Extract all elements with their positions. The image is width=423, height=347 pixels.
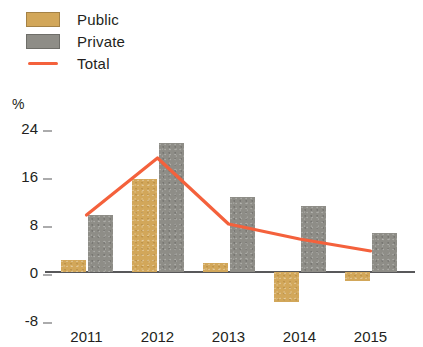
y-axis-tick-label: 0 xyxy=(30,264,38,281)
y-axis-tick-label: 16 xyxy=(21,168,38,185)
x-axis-tick-2015: 2015 xyxy=(354,328,387,345)
bar-public-2012 xyxy=(132,179,157,272)
legend-item-private: Private xyxy=(26,30,125,52)
y-axis-tick-mark xyxy=(43,226,52,227)
y-axis-tick-label: 8 xyxy=(30,216,38,233)
plot-area: 241680-8 20112012201320142015 xyxy=(55,128,410,320)
x-axis-tick-2012: 2012 xyxy=(141,328,174,345)
legend-item-total: Total xyxy=(26,52,125,74)
y-axis-tick-label: 24 xyxy=(21,120,38,137)
y-axis-tick: 16 xyxy=(0,168,52,185)
legend-label-private: Private xyxy=(77,33,125,50)
y-axis-tick: 8 xyxy=(0,216,52,233)
bar-public-2015 xyxy=(345,272,370,281)
y-axis-tick: -8 xyxy=(0,312,52,329)
legend-label-public: Public xyxy=(77,11,119,28)
total-line-path xyxy=(87,158,371,251)
y-axis-unit-label: % xyxy=(12,96,24,112)
y-axis-tick-mark xyxy=(43,130,52,131)
y-axis-tick-mark xyxy=(43,274,52,275)
legend-label-total: Total xyxy=(77,55,110,72)
bar-public-2013 xyxy=(203,263,228,272)
legend-line-total xyxy=(28,62,58,65)
bar-public-2011 xyxy=(61,260,86,272)
legend-swatch-total xyxy=(26,56,60,71)
y-axis-tick-mark xyxy=(43,322,52,323)
legend-swatch-public xyxy=(26,12,60,27)
bar-private-2012 xyxy=(159,143,184,272)
y-axis-tick: 24 xyxy=(0,120,52,137)
y-axis-tick-mark xyxy=(43,178,52,179)
chart-legend: Public Private Total xyxy=(26,8,125,74)
bar-private-2013 xyxy=(230,197,255,272)
y-axis-tick-label: -8 xyxy=(25,312,38,329)
chart-container: Public Private Total % 241680-8 20112012… xyxy=(0,0,423,347)
x-axis-tick-2014: 2014 xyxy=(283,328,316,345)
bar-public-2014 xyxy=(274,272,299,302)
x-axis-tick-2011: 2011 xyxy=(70,328,102,345)
bar-private-2014 xyxy=(301,206,326,272)
legend-swatch-private xyxy=(26,34,60,49)
bar-private-2015 xyxy=(372,233,397,272)
bar-private-2011 xyxy=(88,215,113,272)
legend-item-public: Public xyxy=(26,8,125,30)
x-axis-tick-2013: 2013 xyxy=(212,328,245,345)
